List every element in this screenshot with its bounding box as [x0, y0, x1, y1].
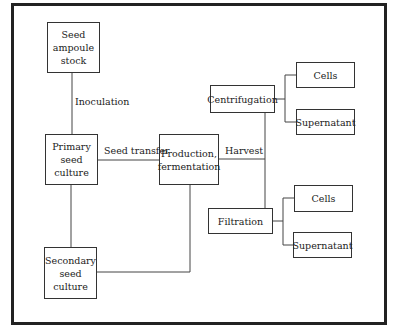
- production-fermentation-node: Production, fermentation: [159, 134, 219, 185]
- seed-transfer-label: Seed transfer: [104, 145, 170, 156]
- seed-ampoule-stock-node: Seed ampoule stock: [47, 22, 100, 73]
- centrifugation-node: Centrifugation: [210, 85, 275, 113]
- filtration-cells-node: Cells: [294, 185, 353, 212]
- filtration-supernatant-node: Supernatant: [293, 232, 352, 258]
- inoculation-label: Inoculation: [75, 96, 129, 107]
- primary-seed-culture-node: Primary seed culture: [45, 134, 98, 185]
- secondary-seed-culture-node: Secondary seed culture: [44, 247, 97, 299]
- filtration-node: Filtration: [208, 208, 273, 234]
- centrifugation-cells-node: Cells: [296, 62, 355, 88]
- harvest-label: Harvest: [225, 145, 263, 156]
- centrifugation-supernatant-node: Supernatant: [296, 109, 355, 135]
